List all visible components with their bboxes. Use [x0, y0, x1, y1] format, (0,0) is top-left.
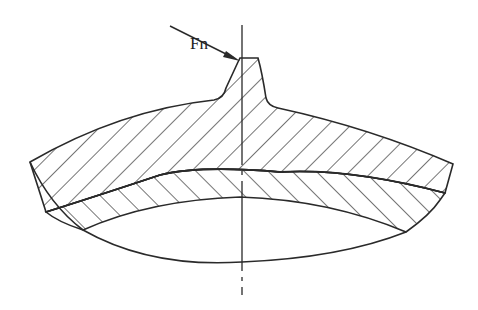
gear-section-drawing — [0, 0, 478, 310]
bore-arc — [83, 230, 406, 263]
force-arrow-head-icon — [223, 51, 240, 61]
force-label: Fn — [190, 34, 208, 54]
